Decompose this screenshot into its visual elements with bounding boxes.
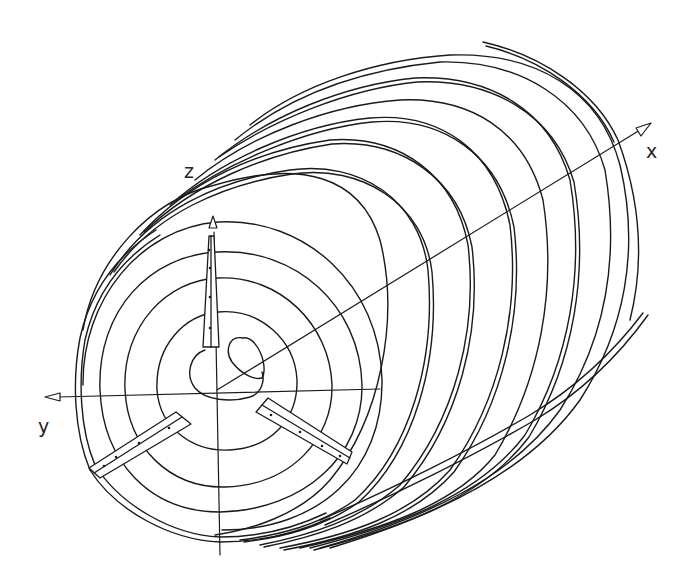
coil-turn-7 xyxy=(235,62,611,548)
front-ring-5 xyxy=(83,222,382,530)
coil-turn-3 xyxy=(140,140,470,545)
coil-wireframe-drawing xyxy=(0,0,697,583)
vane-lower-left-divider xyxy=(94,417,182,473)
axes xyxy=(45,123,651,555)
y-axis-arrowhead-icon xyxy=(45,393,60,401)
front-rim-outer xyxy=(90,470,330,542)
coil-turn-4 xyxy=(170,117,513,548)
x-axis-line xyxy=(217,130,640,390)
front-concentric-rings xyxy=(83,222,382,530)
coil-turn-9 xyxy=(483,42,639,320)
coil-turn-6 xyxy=(215,78,576,548)
front-rim-inner xyxy=(95,465,326,537)
coil-tail-b xyxy=(325,315,648,525)
vane-lower-right-divider xyxy=(262,405,350,458)
coil-turn-9b xyxy=(486,46,614,142)
x-axis-label: x xyxy=(646,142,657,161)
x-axis-arrowhead-icon xyxy=(636,123,651,136)
y-axis-label: y xyxy=(38,417,49,436)
coil-turn-2 xyxy=(110,168,429,540)
z-axis-label: z xyxy=(184,162,194,181)
